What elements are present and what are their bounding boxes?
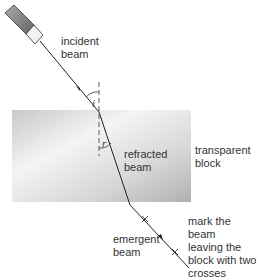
mark-line2: leaving the xyxy=(188,241,258,254)
block-label-line2: block xyxy=(195,157,251,170)
emergent-label-line2: beam xyxy=(113,246,159,259)
angle-i-label: i xyxy=(92,97,95,110)
angle-r-label: r xyxy=(102,137,106,150)
block-label-line1: transparent xyxy=(195,144,251,157)
mark-instruction-label: mark the beam leaving the block with two… xyxy=(188,215,258,277)
emergent-label: emergent beam xyxy=(113,233,159,259)
mark-line3: block with two xyxy=(188,254,258,267)
incident-label-line1: incident xyxy=(61,35,99,48)
ray-box-icon xyxy=(5,5,43,44)
incident-label: incident beam xyxy=(61,35,99,61)
mark-line4: crosses xyxy=(188,267,258,277)
cross-mark-2 xyxy=(172,249,178,255)
incident-label-line2: beam xyxy=(61,48,99,61)
refracted-label-line1: refracted xyxy=(124,148,167,161)
refracted-label-line2: beam xyxy=(124,161,167,174)
refracted-label: refracted beam xyxy=(124,148,167,174)
emergent-label-line1: emergent xyxy=(113,233,159,246)
block-label: transparent block xyxy=(195,144,251,170)
mark-line1: mark the beam xyxy=(188,215,258,241)
